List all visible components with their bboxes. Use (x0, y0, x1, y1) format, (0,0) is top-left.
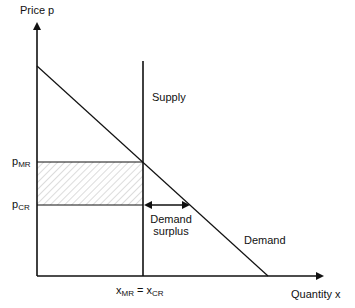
supply-label: Supply (152, 91, 186, 103)
p-mr-sub: MR (18, 160, 30, 169)
x-axis-label: Quantity x (291, 288, 341, 300)
p-cr-label: pCR (12, 198, 30, 214)
hatched-rent-area (37, 162, 143, 205)
x-mr-sub: MR (122, 289, 134, 298)
demand-surplus-line2: surplus (147, 225, 195, 237)
demand-label: Demand (244, 234, 286, 246)
p-cr-sub: CR (18, 203, 30, 212)
demand-surplus-line1: Demand (147, 213, 195, 225)
x-cr-sub: CR (152, 289, 164, 298)
y-axis-label: Price p (20, 4, 54, 16)
demand-surplus-label: Demand surplus (147, 213, 195, 237)
p-mr-label: pMR (12, 155, 31, 171)
quantity-equality-label: xMR = xCR (116, 284, 164, 300)
market-diagram (0, 0, 355, 308)
equals-sign: = (134, 284, 147, 296)
